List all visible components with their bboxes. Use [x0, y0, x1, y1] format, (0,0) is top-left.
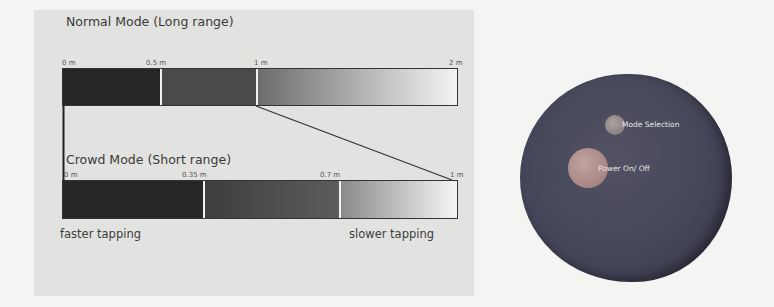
- power-button-label: Power On/ Off: [598, 164, 650, 173]
- crowd-tick-3: 1 m: [450, 171, 464, 179]
- mode-selection-label: Mode Selection: [622, 120, 679, 129]
- crowd-tick-1: 0.35 m: [182, 171, 207, 179]
- wearable-device-body: [520, 74, 732, 282]
- crowd-segment-far: [339, 181, 457, 218]
- crowd-mode-range-bar: [62, 180, 458, 219]
- faster-tapping-caption: faster tapping: [60, 227, 141, 241]
- crowd-tick-0: 0 m: [64, 171, 78, 179]
- crowd-segment-mid: [203, 181, 339, 218]
- crowd-mode-title: Crowd Mode (Short range): [66, 152, 231, 167]
- crowd-segment-near: [63, 181, 203, 218]
- crowd-tick-2: 0.7 m: [320, 171, 340, 179]
- slower-tapping-caption: slower tapping: [349, 227, 434, 241]
